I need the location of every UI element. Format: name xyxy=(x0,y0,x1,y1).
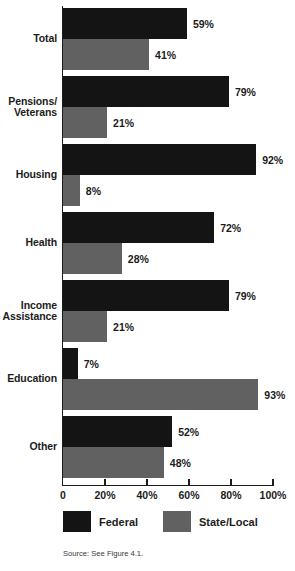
bar-value-label: 52% xyxy=(178,426,199,438)
bar-state xyxy=(63,39,149,70)
category-label: Housing xyxy=(0,169,57,181)
bar-state xyxy=(63,175,80,206)
bar-group: Health72%28% xyxy=(0,212,295,274)
bar-value-label: 7% xyxy=(84,358,99,370)
bar-federal xyxy=(63,416,172,447)
x-axis-tick xyxy=(146,479,147,486)
bar-state xyxy=(63,379,258,410)
bar-federal xyxy=(63,144,256,175)
bar-value-label: 21% xyxy=(113,321,134,333)
x-axis-tick xyxy=(104,479,105,486)
bar-value-label: 59% xyxy=(193,18,214,30)
x-axis-tick-label: 80% xyxy=(220,489,241,501)
x-axis-tick-label: 60% xyxy=(178,489,199,501)
legend-swatch-federal xyxy=(63,511,91,532)
bar-value-label: 93% xyxy=(264,389,285,401)
bar-state xyxy=(63,311,107,342)
x-axis-tick-label: 20% xyxy=(94,489,115,501)
legend-swatch-state-local xyxy=(163,511,191,532)
legend-item-state-local: State/Local xyxy=(163,511,258,532)
bar-group: Education7%93% xyxy=(0,348,295,410)
category-label: Other xyxy=(0,441,57,453)
bar-state xyxy=(63,243,122,274)
bar-value-label: 21% xyxy=(113,117,134,129)
bar-value-label: 79% xyxy=(235,86,256,98)
category-label: Pensions/Veterans xyxy=(0,96,57,119)
bar-federal xyxy=(63,348,78,379)
bar-value-label: 8% xyxy=(86,185,101,197)
legend-label-state-local: State/Local xyxy=(199,516,258,528)
bar-value-label: 79% xyxy=(235,290,256,302)
bar-value-label: 92% xyxy=(262,154,283,166)
category-label: Health xyxy=(0,237,57,249)
plot-area: Total59%41%Pensions/Veterans79%21%Housin… xyxy=(0,0,295,492)
bar-federal xyxy=(63,8,187,39)
bar-state xyxy=(63,447,164,478)
x-axis-tick-label: 40% xyxy=(136,489,157,501)
bar-value-label: 48% xyxy=(170,457,191,469)
category-label: Education xyxy=(0,373,57,385)
bar-group: Pensions/Veterans79%21% xyxy=(0,76,295,138)
legend-label-federal: Federal xyxy=(99,516,138,528)
category-label: Total xyxy=(0,33,57,45)
bar-federal xyxy=(63,212,214,243)
legend-item-federal: Federal xyxy=(63,511,138,532)
bar-chart: Total59%41%Pensions/Veterans79%21%Housin… xyxy=(0,0,295,571)
source-note: Source: See Figure 4.1. xyxy=(63,549,143,558)
bar-group: Other52%48% xyxy=(0,416,295,478)
x-axis-tick xyxy=(188,479,189,486)
bar-group: Total59%41% xyxy=(0,8,295,70)
x-axis-tick xyxy=(272,479,273,486)
bar-group: Housing92%8% xyxy=(0,144,295,206)
bar-value-label: 28% xyxy=(128,253,149,265)
bar-value-label: 41% xyxy=(155,49,176,61)
x-axis-tick-label: 100% xyxy=(260,489,287,501)
bar-state xyxy=(63,107,107,138)
x-axis-tick-label: 0 xyxy=(60,489,66,501)
bar-value-label: 72% xyxy=(220,222,241,234)
category-label: IncomeAssistance xyxy=(0,300,57,323)
x-axis-line xyxy=(62,485,274,486)
bar-federal xyxy=(63,280,229,311)
chart-legend: Federal State/Local xyxy=(0,511,295,537)
bar-group: IncomeAssistance79%21% xyxy=(0,280,295,342)
bar-federal xyxy=(63,76,229,107)
x-axis-tick xyxy=(230,479,231,486)
